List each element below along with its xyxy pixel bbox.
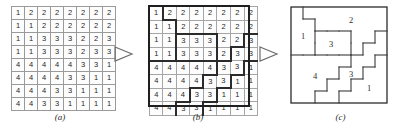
grid-cell: 3: [190, 88, 203, 102]
grid-cell: 1: [163, 34, 176, 48]
grid-cell: 2: [217, 47, 231, 61]
grid-cell: 2: [244, 7, 257, 21]
grid-cell: 1: [150, 7, 163, 21]
grid-cell: 3: [203, 47, 216, 61]
grid-cell: 1: [25, 20, 38, 33]
grid-row: 44331111: [12, 98, 116, 111]
grid-cell: 3: [190, 34, 203, 48]
grid-cell: 4: [38, 59, 51, 72]
grid-cell: 4: [176, 75, 189, 89]
grid-row: 11333233: [12, 46, 116, 59]
caption-a: (a): [0, 112, 120, 122]
grid-cell: 2: [217, 20, 231, 34]
grid-cell: 2: [77, 46, 90, 59]
grid-a-body: 1222222211222222113332231133323344444331…: [12, 7, 116, 111]
figure-region-segmentation: 1222222211222222113332231133323344444331…: [0, 0, 402, 129]
grid-cell: 2: [231, 20, 244, 34]
region-label-group: 123431: [301, 15, 371, 93]
grid-cell: 4: [163, 61, 176, 75]
grid-cell: 1: [12, 20, 25, 33]
grid-cell: 4: [12, 59, 25, 72]
grid-cell: 2: [231, 34, 244, 48]
grid-cell: 4: [51, 59, 64, 72]
region-label: 2: [349, 15, 353, 25]
grid-cell: 1: [231, 75, 244, 89]
grid-cell: 1: [103, 72, 116, 85]
grid-cell: 3: [90, 46, 103, 59]
grid-cell: 1: [217, 88, 231, 102]
grid-cell: 1: [244, 75, 257, 89]
grid-cell: 3: [51, 33, 64, 46]
grid-cell: 3: [51, 46, 64, 59]
grid-cell: 1: [90, 85, 103, 98]
grid-cell: 2: [176, 20, 189, 34]
grid-cell: 1: [150, 20, 163, 34]
grid-row: 12222222: [150, 7, 258, 21]
grid-cell: 3: [64, 85, 77, 98]
grid-cell: 4: [25, 98, 38, 111]
grid-cell: 2: [203, 20, 216, 34]
grid-cell: 1: [103, 98, 116, 111]
grid-row: 44443311: [12, 72, 116, 85]
region-label: 1: [367, 83, 371, 93]
grid-row: 12222222: [12, 7, 116, 20]
grid-cell: 4: [12, 98, 25, 111]
grid-cell: 4: [163, 75, 176, 89]
grid-cell: 2: [163, 7, 176, 21]
grid-cell: 1: [244, 88, 257, 102]
grid-cell: 1: [12, 7, 25, 20]
grid-cell: 3: [51, 85, 64, 98]
region-label: 4: [313, 71, 318, 81]
grid-row: 44443311: [150, 75, 258, 89]
region-label: 1: [301, 31, 305, 41]
grid-cell: 2: [77, 33, 90, 46]
grid-cell: 4: [64, 59, 77, 72]
grid-cell: 2: [90, 20, 103, 33]
grid-cell: 4: [25, 59, 38, 72]
grid-cell: 3: [38, 98, 51, 111]
grid-cell: 1: [150, 47, 163, 61]
grid-cell: 4: [203, 61, 216, 75]
grid-cell: 1: [77, 85, 90, 98]
grid-cell: 1: [163, 47, 176, 61]
grid-cell: 3: [190, 47, 203, 61]
grid-cell: 4: [38, 85, 51, 98]
grid-cell: 3: [203, 34, 216, 48]
grid-row: 44444331: [12, 59, 116, 72]
grid-cell: 1: [150, 34, 163, 48]
grid-cell: 2: [64, 20, 77, 33]
grid-cell: 4: [150, 61, 163, 75]
grid-cell: 3: [217, 61, 231, 75]
grid-cell: 1: [12, 46, 25, 59]
grid-row: 11222222: [12, 20, 116, 33]
label-grid-b: 1222222211222222113332231133323344444331…: [149, 6, 258, 116]
grid-cell: 2: [190, 20, 203, 34]
caption-c: (c): [283, 112, 398, 122]
grid-cell: 4: [150, 75, 163, 89]
grid-row: 44444331: [150, 61, 258, 75]
grid-cell: 4: [38, 72, 51, 85]
grid-cell: 1: [77, 98, 90, 111]
grid-b-body: 1222222211222222113332231133323344444331…: [150, 7, 258, 116]
grid-cell: 1: [64, 98, 77, 111]
grid-cell: 4: [12, 72, 25, 85]
grid-cell: 2: [25, 7, 38, 20]
grid-cell: 4: [176, 61, 189, 75]
grid-cell: 2: [231, 7, 244, 21]
grid-cell: 4: [25, 85, 38, 98]
grid-row: 11222222: [150, 20, 258, 34]
grid-cell: 2: [203, 7, 216, 21]
grid-cell: 4: [25, 72, 38, 85]
grid-cell: 1: [231, 88, 244, 102]
grid-cell: 1: [90, 72, 103, 85]
grid-cell: 4: [12, 85, 25, 98]
grid-cell: 2: [90, 33, 103, 46]
grid-cell: 2: [103, 20, 116, 33]
grid-cell: 2: [77, 7, 90, 20]
grid-cell: 3: [217, 75, 231, 89]
grid-cell: 1: [103, 85, 116, 98]
grid-cell: 3: [244, 34, 257, 48]
grid-cell: 2: [38, 7, 51, 20]
grid-cell: 4: [176, 88, 189, 102]
grid-cell: 3: [176, 34, 189, 48]
